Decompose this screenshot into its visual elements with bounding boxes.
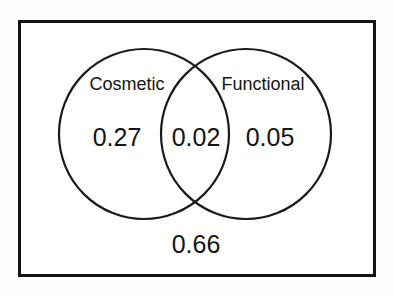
region-value-cosmetic-only: 0.27 (93, 123, 142, 151)
region-value-intersection: 0.02 (172, 123, 221, 151)
venn-diagram-figure: Cosmetic Functional 0.27 0.02 0.05 0.66 (0, 0, 393, 296)
region-value-functional-only: 0.05 (246, 123, 295, 151)
region-value-outside: 0.66 (172, 230, 221, 258)
set-label-functional: Functional (221, 74, 304, 94)
set-label-cosmetic: Cosmetic (89, 74, 164, 94)
venn-diagram-screenshot: Cosmetic Functional 0.27 0.02 0.05 0.66 (0, 0, 393, 296)
